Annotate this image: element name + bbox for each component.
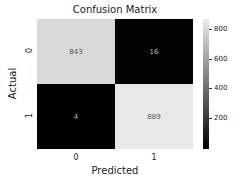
heatmap: 843 16 4 889 [37, 19, 193, 149]
colorbar-tick-200: 200 [209, 114, 227, 122]
cell-actual1-pred0: 4 [37, 84, 115, 149]
x-axis-label: Predicted [37, 165, 193, 176]
y-tick-0: 0 [25, 46, 34, 56]
chart-title: Confusion Matrix [37, 4, 193, 16]
cell-actual1-pred1: 889 [115, 84, 193, 149]
x-tick-0: 0 [66, 153, 86, 162]
x-tick-1: 1 [144, 153, 164, 162]
colorbar-tick-400: 400 [209, 84, 227, 92]
colorbar-tick-800: 800 [209, 25, 227, 33]
cell-actual0-pred0: 843 [37, 19, 115, 84]
y-axis-label: Actual [7, 64, 18, 104]
colorbar-tick-600: 600 [209, 55, 227, 63]
y-tick-1: 1 [25, 111, 34, 121]
cell-actual0-pred1: 16 [115, 19, 193, 84]
